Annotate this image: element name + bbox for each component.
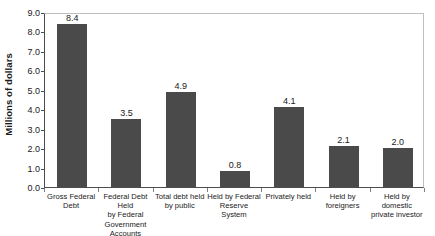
bar-slot: 0.8 <box>208 14 262 187</box>
bar <box>220 171 250 187</box>
bar-value-label: 8.4 <box>66 13 79 23</box>
bar-chart: Millions of dollars 9.08.07.06.05.04.03.… <box>0 0 435 236</box>
bar-slot: 4.1 <box>262 14 316 187</box>
y-tick-label: 0.0 <box>6 183 40 193</box>
bar-slot: 4.9 <box>154 14 208 187</box>
bar-value-label: 2.0 <box>392 137 405 147</box>
x-category-label: Held byforeigners <box>315 192 369 210</box>
x-category-label: Federal Debt Heldby FederalGovernmentAcc… <box>98 192 152 236</box>
y-tick-label: 8.0 <box>6 27 40 37</box>
bar-slot: 8.4 <box>45 14 99 187</box>
plot-area: 8.43.54.90.84.12.12.0 <box>44 13 424 188</box>
bar-value-label: 4.9 <box>174 81 187 91</box>
x-category-label: Held by FederalReserve System <box>207 192 261 220</box>
bars-layer: 8.43.54.90.84.12.12.0 <box>45 14 423 187</box>
y-tick-label: 7.0 <box>6 47 40 57</box>
bar <box>166 92 196 187</box>
x-category-label: Total debt heldby public <box>153 192 207 210</box>
x-category-label: Privately held <box>261 192 315 201</box>
y-tick-label: 1.0 <box>6 164 40 174</box>
bar-slot: 2.1 <box>316 14 370 187</box>
bar <box>329 146 359 187</box>
x-axis-labels: Gross FederalDebtFederal Debt Heldby Fed… <box>44 192 424 236</box>
y-tick-label: 9.0 <box>6 8 40 18</box>
y-tick-label: 3.0 <box>6 125 40 135</box>
bar-value-label: 3.5 <box>120 108 133 118</box>
bar <box>274 107 304 187</box>
y-tick-label: 4.0 <box>6 105 40 115</box>
bar-slot: 2.0 <box>371 14 425 187</box>
x-category-label: Gross FederalDebt <box>44 192 98 210</box>
bar <box>383 148 413 187</box>
bar <box>57 24 87 187</box>
y-tick-label: 6.0 <box>6 66 40 76</box>
x-category-label: Held by domesticprivate investor <box>370 192 424 220</box>
bar-value-label: 0.8 <box>229 160 242 170</box>
bar-value-label: 2.1 <box>337 135 350 145</box>
bar-value-label: 4.1 <box>283 96 296 106</box>
bar-slot: 3.5 <box>99 14 153 187</box>
y-tick-label: 2.0 <box>6 144 40 154</box>
y-tick-label: 5.0 <box>6 86 40 96</box>
bar <box>111 119 141 187</box>
x-tick-mark <box>424 188 425 192</box>
